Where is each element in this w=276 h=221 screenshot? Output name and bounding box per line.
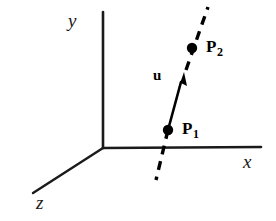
y-axis-label: y xyxy=(68,11,76,30)
x-axis-line xyxy=(103,147,261,148)
figure-canvas xyxy=(0,0,276,221)
point-p2-label: P2 xyxy=(206,38,223,58)
z-axis-label: z xyxy=(36,193,43,212)
point-p2-marker xyxy=(187,43,197,53)
line-in-3d-space-figure: y x z P1 P2 u xyxy=(0,0,276,221)
point-p1-label: P1 xyxy=(182,120,199,140)
z-axis-line xyxy=(33,148,103,193)
point-p1-marker xyxy=(163,125,173,135)
dashed-line-lower-segment xyxy=(156,130,168,180)
point-p2-subscript: 2 xyxy=(216,45,223,59)
vector-u-label: u xyxy=(153,68,161,83)
point-p1-letter: P xyxy=(182,119,192,138)
vector-u-shaft xyxy=(168,82,181,130)
point-p2-letter: P xyxy=(206,37,216,56)
x-axis-label: x xyxy=(243,152,251,171)
dashed-line-upper-segment xyxy=(186,7,208,70)
point-p1-subscript: 1 xyxy=(192,127,199,141)
